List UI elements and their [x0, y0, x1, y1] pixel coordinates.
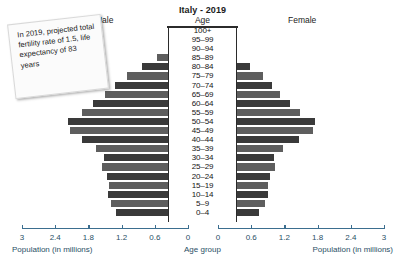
x-axis-left: 32.41.81.20.60: [22, 228, 188, 229]
axis-tick-label: 3: [382, 233, 386, 242]
axis-tick-label: 2.4: [345, 233, 356, 242]
age-group-label: 25–29: [169, 162, 236, 171]
age-group-label: 100+: [169, 26, 236, 35]
axis-tick-label: 3: [20, 233, 24, 242]
axis-tick: [155, 225, 156, 229]
age-group-label: 45–49: [169, 126, 236, 135]
axis-tick-label: 1.8: [83, 233, 94, 242]
annotation-text: In 2019, projected total fertility rate …: [17, 22, 99, 71]
age-group-label: 10–14: [169, 190, 236, 199]
axis-tick-label: 0: [216, 233, 220, 242]
age-group-label: 40–44: [169, 135, 236, 144]
axis-tick: [251, 225, 252, 229]
age-group-label: 0–4: [169, 208, 236, 217]
age-group-label: 20–24: [169, 172, 236, 181]
age-group-label: 60–64: [169, 99, 236, 108]
axis-tick: [22, 225, 23, 229]
age-group-label: 50–54: [169, 117, 236, 126]
axis-tick: [122, 225, 123, 229]
axis-tick-label: 0: [186, 233, 190, 242]
chart-title: Italy - 2019: [0, 5, 405, 15]
axis-tick-label: 1.2: [279, 233, 290, 242]
x-axis-right: 00.61.21.82.43: [218, 228, 384, 229]
female-side-label: Female: [288, 15, 316, 25]
axis-tick-label: 2.4: [50, 233, 61, 242]
age-group-label: 75–79: [169, 71, 236, 80]
axis-tick: [188, 225, 189, 229]
axis-tick: [55, 225, 56, 229]
age-group-label: 55–59: [169, 108, 236, 117]
age-group-label: 95–99: [169, 35, 236, 44]
axis-tick: [284, 225, 285, 229]
axis-tick: [351, 225, 352, 229]
age-group-label: 80–84: [169, 62, 236, 71]
age-group-label: 85–89: [169, 53, 236, 62]
x-axis-title-right: Population (in millions): [313, 245, 393, 254]
annotation-note: In 2019, projected total fertility rate …: [7, 14, 109, 99]
axis-tick: [318, 225, 319, 229]
age-group-label: 90–94: [169, 44, 236, 53]
axis-tick: [88, 225, 89, 229]
age-label-column: 100+95–9990–9485–8980–8475–7970–7465–696…: [168, 26, 237, 222]
axis-tick-label: 0.6: [246, 233, 257, 242]
axis-tick-label: 1.8: [312, 233, 323, 242]
axis-tick: [218, 225, 219, 229]
age-group-label: 5–9: [169, 199, 236, 208]
age-group-label: 15–19: [169, 181, 236, 190]
age-group-label: 65–69: [169, 90, 236, 99]
population-pyramid-chart: Italy - 2019 Age Male Female In 2019, pr…: [0, 0, 405, 267]
age-group-label: 35–39: [169, 144, 236, 153]
axis-tick: [384, 225, 385, 229]
axis-tick-label: 1.2: [116, 233, 127, 242]
age-group-label: 70–74: [169, 81, 236, 90]
axis-tick-label: 0.6: [149, 233, 160, 242]
age-group-label: 30–34: [169, 153, 236, 162]
